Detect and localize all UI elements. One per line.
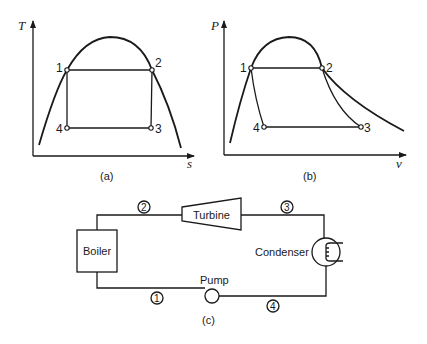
state-label-2: 2: [141, 202, 147, 213]
pipe-1: [97, 272, 205, 288]
pv-diagram: P v 1 2 3 4 (b): [210, 18, 406, 182]
state-point-4: [262, 125, 266, 129]
caption-c: (c): [202, 314, 215, 326]
condenser-label: Condenser: [255, 246, 309, 258]
state-point-1: [249, 66, 253, 70]
pipe-3: [241, 215, 324, 238]
ts-diagram: T s 1 2 3 4 (a): [18, 18, 194, 182]
label-point-3: 3: [155, 122, 162, 136]
state-label-4: 4: [270, 301, 276, 312]
label-point-3: 3: [364, 121, 371, 135]
turbine-label: Turbine: [193, 209, 230, 221]
carnot-cycle-figure: T s 1 2 3 4 (a) P v 1 2 3 4 (b): [0, 0, 427, 344]
state-point-3: [359, 125, 363, 129]
label-point-4: 4: [56, 122, 63, 136]
label-point-1: 1: [56, 61, 63, 75]
state-label-1: 1: [154, 293, 160, 304]
state-point-3: [149, 126, 153, 130]
state-point-4: [65, 126, 69, 130]
p-axis-label: P: [210, 18, 219, 33]
state-point-1: [65, 68, 69, 72]
pump-label: Pump: [200, 274, 229, 286]
caption-a: (a): [100, 170, 113, 182]
state-point-2: [150, 68, 154, 72]
t-axis-label: T: [18, 18, 26, 33]
label-point-4: 4: [253, 121, 260, 135]
process-2-3: [322, 68, 361, 127]
state-label-3: 3: [284, 202, 290, 213]
state-point-2: [320, 66, 324, 70]
cycle-schematic: Boiler 2 Turbine 3 Condenser 4 Pump 1 (c…: [77, 198, 343, 326]
process-2-3: [151, 70, 152, 128]
caption-b: (b): [303, 170, 316, 182]
s-axis-label: s: [187, 156, 192, 171]
pipe-2: [97, 215, 182, 230]
label-point-2: 2: [155, 56, 162, 70]
v-axis-label: v: [396, 156, 402, 171]
process-4-1: [251, 68, 264, 127]
label-point-2: 2: [326, 61, 333, 75]
label-point-1: 1: [240, 61, 247, 75]
pipe-4: [219, 266, 326, 296]
boiler-label: Boiler: [83, 245, 111, 257]
pump: [205, 289, 219, 303]
